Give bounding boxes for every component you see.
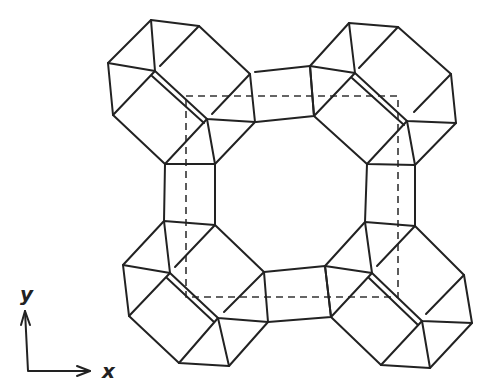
x-axis-label: x (102, 359, 115, 383)
cage-bottom-left (123, 221, 268, 366)
zeolite-diagram: y x (0, 0, 486, 391)
prism-right (365, 164, 415, 226)
cage-top-right (310, 23, 456, 165)
prism-top (255, 66, 314, 122)
framework-drawing (0, 0, 486, 391)
axis-indicator (21, 311, 90, 376)
y-axis-label: y (20, 282, 33, 306)
prism-left (164, 164, 215, 225)
cage-top-left (108, 20, 255, 164)
prism-bottom (264, 266, 331, 322)
